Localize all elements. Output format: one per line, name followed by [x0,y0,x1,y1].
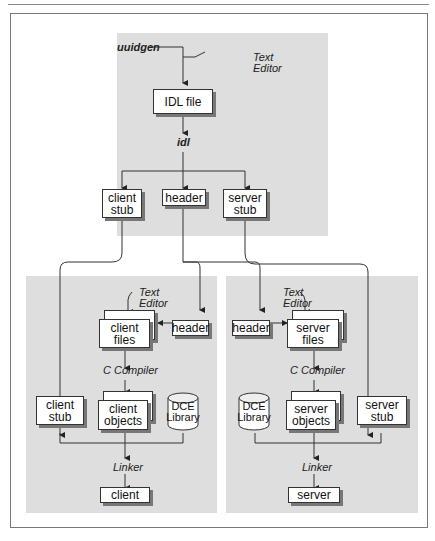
dce-library-label-client: DCE Library [166,401,200,423]
server-files-box: server files [287,319,339,348]
client-output-box: client [100,487,150,503]
connector-lines [0,0,435,541]
client-stub-line1: client [108,192,136,204]
client-stub-box: client stub [36,396,84,425]
server-objects-box: server objects [286,400,336,430]
idl-file-box: IDL file [153,89,213,114]
client-objects-line2: objects [104,415,142,427]
client-stub-line2: stub [49,411,72,423]
header-box-top: header [162,189,206,206]
client-stub-line2: stub [111,204,134,216]
client-stub-box-top: client stub [102,189,142,218]
server-stub-box: server stub [357,396,407,425]
dce-line2: Library [237,412,271,423]
server-output-box: server [288,487,340,503]
server-stub-box-top: server stub [223,189,267,218]
dce-line2: Library [166,412,200,423]
client-stub-line1: client [46,399,74,411]
client-objects-box: client objects [98,400,148,430]
header-box-server: header [232,320,270,336]
linker-label-client: Linker [113,462,143,473]
server-stub-line2: stub [234,204,257,216]
c-compiler-label-server: C Compiler [290,365,345,376]
idl-compiler-label: idl [177,137,190,148]
c-compiler-label-client: C Compiler [103,365,158,376]
server-stub-line1: server [228,192,261,204]
server-objects-line2: objects [292,415,330,427]
dce-library-label-server: DCE Library [237,401,271,423]
server-stub-line2: stub [371,411,394,423]
text-editor-label-top: Text Editor [253,52,282,74]
header-box-client: header [172,320,209,336]
text-editor-line2: Editor [253,63,282,74]
uuidgen-label: uuidgen [117,42,160,53]
text-editor-label-client: Text Editor [139,287,168,309]
text-editor-label-server: Text Editor [283,287,312,309]
text-editor-line2: Editor [283,298,312,309]
server-stub-line1: server [365,399,398,411]
linker-label-server: Linker [302,462,332,473]
text-editor-line2: Editor [139,298,168,309]
client-files-box: client files [99,319,150,348]
